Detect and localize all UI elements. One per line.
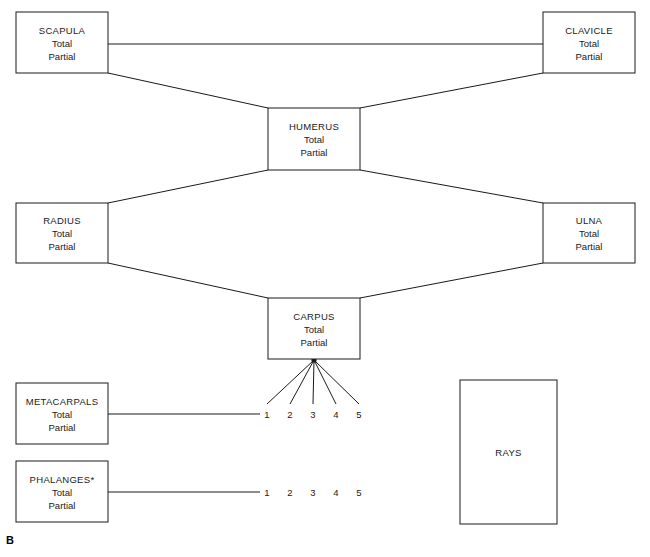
connector-scapula-humerus [108, 73, 268, 108]
scapula-total-option[interactable]: Total [52, 38, 72, 49]
digit-row-metacarpals: 1 2 3 4 5 [264, 409, 361, 420]
scapula-partial-option[interactable]: Partial [49, 51, 76, 62]
phalanges-total-option[interactable]: Total [52, 487, 72, 498]
metacarpal-digit-4[interactable]: 4 [333, 409, 338, 420]
phalanges-partial-option[interactable]: Partial [49, 500, 76, 511]
rays-title: RAYS [495, 447, 521, 458]
carpus-total-option[interactable]: Total [304, 324, 324, 335]
connector-ulna-carpus [360, 263, 543, 298]
metacarpal-digit-3[interactable]: 3 [310, 409, 315, 420]
clavicle-title: CLAVICLE [565, 25, 613, 36]
connector-radius-carpus [108, 263, 268, 298]
box-carpus[interactable]: CARPUS Total Partial [268, 298, 360, 359]
phalangeal-digit-5[interactable]: 5 [356, 487, 361, 498]
box-humerus[interactable]: HUMERUS Total Partial [268, 108, 360, 170]
carpus-partial-option[interactable]: Partial [301, 337, 328, 348]
radius-partial-option[interactable]: Partial [49, 241, 76, 252]
phalangeal-digit-2[interactable]: 2 [287, 487, 292, 498]
scapula-title: SCAPULA [39, 25, 86, 36]
metacarpals-total-option[interactable]: Total [52, 409, 72, 420]
clavicle-total-option[interactable]: Total [579, 38, 599, 49]
phalangeal-digit-1[interactable]: 1 [264, 487, 269, 498]
ulna-partial-option[interactable]: Partial [576, 241, 603, 252]
box-scapula[interactable]: SCAPULA Total Partial [16, 12, 108, 73]
phalangeal-digit-3[interactable]: 3 [310, 487, 315, 498]
connector-humerus-radius [108, 170, 268, 203]
ulna-total-option[interactable]: Total [579, 228, 599, 239]
radius-title: RADIUS [43, 215, 81, 226]
metacarpal-digit-5[interactable]: 5 [356, 409, 361, 420]
digit-row-phalanges: 1 2 3 4 5 [264, 487, 361, 498]
box-ulna[interactable]: ULNA Total Partial [543, 203, 635, 263]
box-rays[interactable]: RAYS [460, 380, 557, 524]
radius-total-option[interactable]: Total [52, 228, 72, 239]
humerus-total-option[interactable]: Total [304, 134, 324, 145]
metacarpal-digit-1[interactable]: 1 [264, 409, 269, 420]
carpus-title: CARPUS [293, 311, 334, 322]
ray-line-5 [314, 360, 359, 404]
humerus-title: HUMERUS [289, 121, 339, 132]
connector-clavicle-humerus [360, 73, 543, 108]
ulna-title: ULNA [576, 215, 603, 226]
clavicle-partial-option[interactable]: Partial [576, 51, 603, 62]
diagram-canvas: SCAPULA Total Partial CLAVICLE Total Par… [0, 0, 650, 557]
upper-extremity-diagram: SCAPULA Total Partial CLAVICLE Total Par… [0, 0, 650, 557]
phalanges-title: PHALANGES* [30, 474, 95, 485]
box-phalanges[interactable]: PHALANGES* Total Partial [16, 461, 108, 522]
box-clavicle[interactable]: CLAVICLE Total Partial [543, 12, 635, 73]
ray-line-1 [267, 360, 314, 404]
humerus-partial-option[interactable]: Partial [301, 147, 328, 158]
ray-line-3 [313, 360, 314, 404]
box-radius[interactable]: RADIUS Total Partial [16, 203, 108, 263]
metacarpals-partial-option[interactable]: Partial [49, 422, 76, 433]
panel-label: B [6, 535, 14, 546]
metacarpals-title: METACARPALS [26, 396, 99, 407]
phalangeal-digit-4[interactable]: 4 [333, 487, 338, 498]
ray-line-2 [290, 360, 314, 404]
connector-humerus-ulna [360, 170, 543, 203]
box-metacarpals[interactable]: METACARPALS Total Partial [16, 383, 108, 444]
ray-fan-group [267, 357, 359, 404]
ray-line-4 [314, 360, 336, 404]
metacarpal-digit-2[interactable]: 2 [287, 409, 292, 420]
